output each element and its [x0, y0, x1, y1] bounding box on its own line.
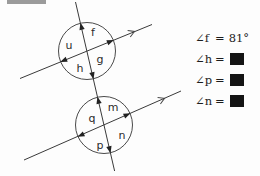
angle-symbol-n: ∠n: [195, 94, 212, 108]
angle-label-h: h: [77, 62, 84, 75]
equals-sign: =: [215, 94, 225, 108]
angle-label-q: q: [89, 112, 96, 125]
equation-row-p: ∠p =: [195, 69, 249, 90]
equation-row-h: ∠h =: [195, 48, 249, 69]
angle-label-n: n: [119, 129, 126, 142]
angle-value-f: 81°: [229, 31, 249, 45]
geometry-worksheet: u f g h q m n p ∠f = 81° ∠h = ∠p = ∠n =: [0, 0, 260, 176]
parallel-line-top: [20, 25, 152, 79]
redacted-answer-box-p: [230, 74, 244, 86]
angle-symbol-h: ∠h: [195, 52, 212, 66]
redacted-answer-box-h: [230, 53, 244, 65]
equation-row-n: ∠n =: [195, 90, 249, 111]
angle-symbol-f: ∠f: [195, 31, 212, 45]
equals-sign: =: [215, 52, 225, 66]
angle-label-g: g: [97, 53, 104, 66]
parallel-lines-diagram: u f g h q m n p: [0, 0, 195, 176]
angle-label-p: p: [97, 139, 104, 152]
equals-sign: =: [215, 31, 225, 45]
redacted-answer-box-n: [230, 95, 244, 107]
angle-label-u: u: [66, 39, 73, 52]
equation-row-f: ∠f = 81°: [195, 27, 249, 48]
angle-equations-list: ∠f = 81° ∠h = ∠p = ∠n =: [195, 27, 249, 111]
equals-sign: =: [215, 73, 225, 87]
angle-label-m: m: [108, 101, 119, 114]
angle-label-f: f: [91, 26, 96, 39]
angle-symbol-p: ∠p: [195, 73, 212, 87]
